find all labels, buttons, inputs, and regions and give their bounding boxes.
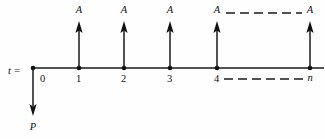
tick-label-2: 2	[121, 73, 126, 84]
inflow-arrow-2	[120, 21, 127, 68]
tick-label-4: 4	[214, 73, 220, 84]
time-axis-label: t =	[8, 65, 21, 76]
tick-label-1: 1	[76, 73, 81, 84]
outflow-arrow-0	[29, 68, 36, 116]
amount-label-3: A	[166, 4, 174, 15]
present-value-label: P	[29, 121, 37, 132]
inflow-arrow-1	[75, 21, 82, 68]
tick-label-n: n	[307, 72, 312, 83]
amount-label-2: A	[120, 4, 128, 15]
cash-flow-svg: t = A A A A A P 0 1 2 3 4 n	[0, 0, 325, 139]
amount-label-1: A	[75, 4, 83, 15]
inflow-arrow-3	[166, 21, 173, 68]
inflow-arrow-n	[306, 21, 313, 68]
inflow-arrow-4	[213, 21, 220, 68]
cash-flow-diagram: t = A A A A A P 0 1 2 3 4 n	[0, 0, 325, 139]
tick-label-0: 0	[40, 73, 45, 84]
amount-label-4: A	[213, 4, 221, 15]
tick-label-3: 3	[167, 73, 172, 84]
amount-label-n: A	[306, 4, 314, 15]
